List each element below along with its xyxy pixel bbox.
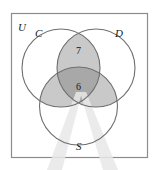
universe-label: U <box>18 21 27 33</box>
venn-diagram-figure: U C D S 7 6 <box>0 0 159 170</box>
count-c-and-d-only: 7 <box>76 45 81 56</box>
set-label-d: D <box>114 27 123 39</box>
set-label-s: S <box>76 140 82 152</box>
venn-diagram-svg: U C D S 7 6 <box>0 0 159 170</box>
set-label-c: C <box>35 27 43 39</box>
count-triple-intersection: 6 <box>76 81 81 92</box>
